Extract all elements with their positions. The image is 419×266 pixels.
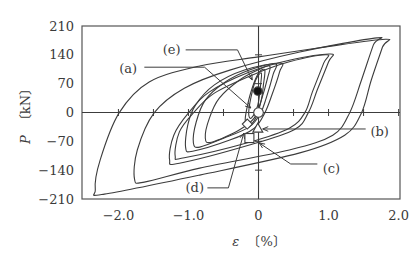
hysteresis-loop-1 (94, 39, 390, 195)
y-tick-label: 0 (66, 105, 74, 120)
y-axis-title: P 〔kN〕 (18, 82, 33, 145)
annotation-label: (e) (163, 42, 181, 57)
x-tick-label: −2.0 (103, 208, 135, 223)
filled-circle-marker-e (254, 87, 262, 95)
y-axis-variable: P (18, 135, 33, 145)
tick-labels: 210140700−70−140−210−2.0−1.001.02.0 (38, 19, 409, 224)
x-tick-label: 1.0 (318, 208, 339, 223)
y-tick-label: 210 (49, 19, 74, 34)
y-tick-label: 140 (49, 47, 74, 62)
annotation-label: (b) (370, 124, 388, 139)
y-tick-label: 70 (57, 76, 74, 91)
x-axis-variable: ε (232, 234, 239, 249)
y-tick-label: −140 (38, 163, 74, 178)
hysteresis-loop-3 (169, 54, 333, 164)
annotation-label: (c) (323, 161, 340, 176)
x-tick-label: 2.0 (388, 208, 409, 223)
x-tick-label: 0 (254, 208, 262, 223)
annotation-label: (d) (186, 180, 204, 195)
square-marker-c (245, 134, 254, 143)
x-tick-label: −1.0 (173, 208, 205, 223)
open-circle-marker-a (254, 108, 264, 118)
axes (82, 26, 400, 199)
hysteresis-loops (94, 38, 390, 196)
hysteresis-chart: (e)(a)(b)(c)(d) 210140700−70−140−210−2.0… (0, 0, 419, 266)
y-tick-label: −70 (47, 134, 74, 149)
x-axis-title: ε 〔%〕 (232, 234, 285, 249)
y-tick-label: −210 (38, 192, 74, 207)
x-axis-unit: 〔%〕 (247, 234, 285, 249)
y-axis-unit: 〔kN〕 (18, 82, 33, 127)
annotation-label: (a) (119, 61, 137, 76)
